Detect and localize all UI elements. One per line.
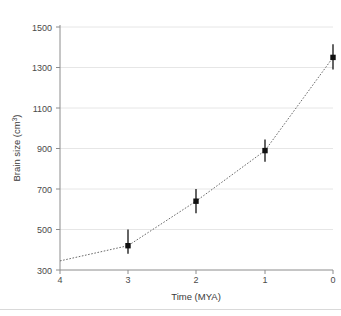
data-point-1mya bbox=[262, 148, 267, 153]
x-axis-title: Time (MYA) bbox=[171, 291, 221, 302]
y-tick-label-1100: 1100 bbox=[33, 104, 52, 114]
y-axis-title-tail: ) bbox=[11, 115, 22, 118]
y-tick-label-700: 700 bbox=[37, 185, 52, 195]
y-tick-label-1500: 1500 bbox=[32, 23, 52, 33]
y-axis-title: Brain size (cm3) bbox=[11, 115, 23, 182]
y-axis-title-main: Brain size (cm bbox=[11, 121, 22, 181]
y-tick-label-300: 300 bbox=[37, 266, 52, 276]
y-tick-label-1300: 1300 bbox=[32, 63, 52, 73]
y-tick-label-500: 500 bbox=[37, 225, 52, 235]
data-point-3mya bbox=[125, 243, 130, 248]
data-point-2mya bbox=[193, 199, 198, 204]
x-tick-label-2: 2 bbox=[193, 275, 198, 285]
x-tick-label-3: 3 bbox=[125, 275, 130, 285]
x-tick-label-1: 1 bbox=[262, 275, 267, 285]
data-point-0mya bbox=[330, 55, 335, 60]
brain-size-vs-time-chart: 1500 1300 1100 900 700 500 300 4 3 2 1 0 bbox=[0, 0, 341, 316]
x-tick-label-0: 0 bbox=[330, 275, 335, 285]
y-tick-label-900: 900 bbox=[37, 144, 52, 154]
x-tick-label-4: 4 bbox=[57, 275, 62, 285]
